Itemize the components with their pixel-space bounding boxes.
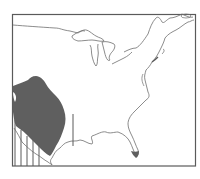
range-florida-tip <box>131 151 139 158</box>
gulf-coast <box>60 132 136 156</box>
lake-huron <box>102 42 115 61</box>
st-lawrence-coast <box>136 14 193 48</box>
atlantic-coast <box>128 38 165 156</box>
cape-cod <box>162 49 164 54</box>
lake-michigan <box>90 44 98 66</box>
lake-superior <box>72 30 104 41</box>
range-map-svg <box>0 0 200 179</box>
northern-border <box>13 25 85 33</box>
lake-erie-ontario <box>112 48 136 64</box>
long-island <box>152 57 158 62</box>
chesapeake <box>142 74 144 86</box>
maritime-coast <box>165 20 194 38</box>
map-figure <box>0 0 200 179</box>
